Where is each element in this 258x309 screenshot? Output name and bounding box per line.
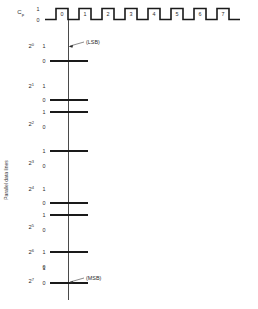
clock-pulse-label-6: 6 xyxy=(199,11,202,17)
data-line-power-label-2: 22 xyxy=(29,120,35,127)
data-line-power-exp-4: 4 xyxy=(32,185,35,190)
data-line-high-label-0: 1 xyxy=(43,43,46,49)
lsb-label: (LSB) xyxy=(86,39,100,45)
data-line-high-label-6: 1 xyxy=(43,249,46,255)
data-line-high-label-2: 1 xyxy=(43,109,46,115)
data-line-power-exp-5: 5 xyxy=(32,223,35,228)
clock-signal-label: Cp xyxy=(17,9,24,17)
data-line-power-label-5: 25 xyxy=(29,223,35,230)
clock-pulse-label-0: 0 xyxy=(61,11,64,17)
data-line-low-label-0: 0 xyxy=(43,58,46,64)
lsb-annotation: (LSB) xyxy=(69,39,100,48)
clock-wave-path xyxy=(45,9,240,20)
data-line-power-exp-1: 1 xyxy=(32,82,35,87)
clock-pulse-label-7: 7 xyxy=(222,11,225,17)
msb-label: (MSB) xyxy=(86,275,101,281)
clock-pulse-label-3: 3 xyxy=(130,11,133,17)
data-line-high-label-5: 1 xyxy=(43,212,46,218)
clock-pulse-label-4: 4 xyxy=(153,11,156,17)
data-line-power-label-1: 21 xyxy=(29,82,35,89)
data-line-low-label-1: 0 xyxy=(43,97,46,103)
data-line-power-exp-7: 7 xyxy=(32,277,35,282)
data-line-low-label-3: 0 xyxy=(43,163,46,169)
clock-level-low-label: 0 xyxy=(37,17,40,23)
data-line-power-label-0: 20 xyxy=(29,42,35,49)
clock-pulse-label-1: 1 xyxy=(84,11,87,17)
data-line-power-exp-6: 6 xyxy=(32,248,35,253)
data-line-low-label-4: 0 xyxy=(43,200,46,206)
data-line-row-2: 22 1 0 xyxy=(29,109,88,130)
data-line-row-6: 26 1 0 xyxy=(29,248,88,270)
data-line-power-exp-2: 2 xyxy=(32,120,35,125)
data-line-power-exp-3: 3 xyxy=(32,159,35,164)
data-line-power-exp-0: 0 xyxy=(32,42,35,47)
clock-waveform xyxy=(45,9,240,20)
data-line-high-label-7: 1 xyxy=(43,265,46,271)
data-line-high-label-3: 1 xyxy=(43,148,46,154)
data-line-power-label-3: 23 xyxy=(29,159,35,166)
data-line-low-label-5: 0 xyxy=(43,227,46,233)
data-line-row-1: 21 1 0 xyxy=(29,82,88,103)
clock-pulse-label-5: 5 xyxy=(176,11,179,17)
data-line-power-label-7: 27 xyxy=(29,277,35,284)
data-line-power-label-6: 26 xyxy=(29,248,35,255)
timing-diagram-canvas: Cp 1 0 0 1 2 3 4 5 6 7 Parallel data lin… xyxy=(0,0,258,309)
clock-level-high-label: 1 xyxy=(37,6,40,12)
data-line-row-3: 23 1 0 xyxy=(29,148,88,169)
data-line-row-0: 20 1 0 xyxy=(29,42,88,64)
data-line-power-label-4: 24 xyxy=(29,185,35,192)
data-line-high-label-1: 1 xyxy=(43,83,46,89)
clock-pulse-labels: 0 1 2 3 4 5 6 7 xyxy=(61,11,225,17)
data-line-low-label-2: 0 xyxy=(43,124,46,130)
data-line-low-label-7: 0 xyxy=(43,280,46,286)
data-line-row-7: 27 1 0 xyxy=(29,265,88,286)
data-line-row-5: 25 1 0 xyxy=(29,212,88,233)
data-line-row-4: 24 1 0 xyxy=(29,185,88,206)
timing-diagram: Cp 1 0 0 1 2 3 4 5 6 7 Parallel data lin… xyxy=(0,0,258,309)
clock-subscript: p xyxy=(22,12,25,17)
parallel-data-lines-axis-label: Parallel data lines xyxy=(3,160,9,200)
clock-pulse-label-2: 2 xyxy=(107,11,110,17)
data-line-high-label-4: 1 xyxy=(43,186,46,192)
